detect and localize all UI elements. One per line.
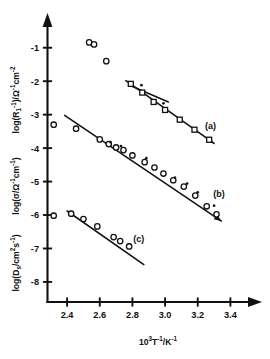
data-point-a-0 — [128, 81, 133, 86]
y-tick-label-0: -1 — [31, 43, 39, 53]
y-tick-label-4: -5 — [31, 177, 39, 187]
y-tick-label-6: -7 — [31, 244, 39, 254]
x-tick-label-1: 2.6 — [93, 310, 106, 320]
data-point-b-1 — [97, 137, 102, 142]
data-point-c-4 — [117, 238, 122, 243]
x-tick-label-2: 2.8 — [126, 310, 139, 320]
x-tick-label-4: 3.2 — [191, 310, 204, 320]
x-tick-label-0: 2.4 — [61, 310, 75, 320]
data-point-b-12 — [204, 204, 209, 209]
arrhenius-plot-figure: -1-2-3-4-5-6-7-8 2.42.62.83.03.23.4 (a)(… — [0, 0, 270, 359]
data-point-a-3 — [163, 107, 168, 112]
data-point-axis-marks-1 — [51, 213, 56, 218]
data-point-b-8 — [161, 171, 166, 176]
data-point-b-0 — [73, 126, 78, 131]
data-point-a-1 — [140, 90, 145, 95]
y-tick-label-3: -4 — [31, 144, 40, 154]
curve-label-a: (a) — [205, 121, 216, 131]
y-tick-label-1: -2 — [31, 77, 39, 87]
curve-label-c: (c) — [133, 234, 144, 244]
y-tick-label-7: -8 — [31, 277, 39, 287]
data-point-b-13 — [214, 212, 219, 217]
data-point-outliers-2 — [104, 58, 109, 63]
data-point-filled-b-0 — [109, 141, 112, 144]
data-point-a-6 — [207, 137, 212, 142]
data-point-b-5 — [130, 153, 135, 158]
data-point-b-3 — [113, 145, 118, 150]
data-point-filled-b-5 — [196, 191, 199, 194]
x-tick-label-3: 3.0 — [159, 310, 172, 320]
svg-text:log(σ/Ω-1cm-1): log(σ/Ω-1cm-1) — [9, 157, 21, 215]
data-point-axis-marks-0 — [51, 122, 56, 127]
data-point-filled-b-4 — [186, 182, 189, 185]
data-point-filled-a-1 — [162, 102, 165, 105]
data-point-c-1 — [81, 216, 86, 221]
data-point-b-7 — [152, 165, 157, 170]
data-point-filled-b-1 — [120, 145, 123, 148]
data-point-outliers-1 — [91, 42, 96, 47]
data-point-b-6 — [142, 159, 147, 164]
plot-canvas: -1-2-3-4-5-6-7-8 2.42.62.83.03.23.4 (a)(… — [0, 0, 270, 359]
data-point-filled-b-6 — [213, 204, 216, 207]
x-tick-label-5: 3.4 — [224, 310, 238, 320]
data-point-filled-b-2 — [145, 157, 148, 160]
y-axis-label-log-R1-inverse: log(R1-1)/Ω-1cm-2 — [9, 66, 22, 133]
data-point-c-3 — [111, 234, 116, 239]
y-tick-label-5: -6 — [31, 210, 39, 220]
data-point-b-11 — [193, 193, 198, 198]
data-point-filled-a-0 — [140, 84, 143, 87]
data-point-c-0 — [68, 211, 73, 216]
data-point-a-5 — [192, 127, 197, 132]
data-point-c-2 — [95, 224, 100, 229]
y-axis-label-log-sigma: log(σ/Ω-1cm-1) — [9, 157, 21, 215]
data-point-b-10 — [181, 184, 186, 189]
data-point-b-4 — [121, 147, 126, 152]
data-point-a-2 — [151, 99, 156, 104]
data-point-a-4 — [177, 117, 182, 122]
data-point-filled-b-3 — [174, 176, 177, 179]
curve-label-b: (b) — [213, 189, 225, 199]
svg-text:log(R1-1)/Ω-1cm-2: log(R1-1)/Ω-1cm-2 — [9, 66, 22, 133]
data-point-c-5 — [126, 244, 131, 249]
y-tick-label-2: -3 — [31, 110, 39, 120]
